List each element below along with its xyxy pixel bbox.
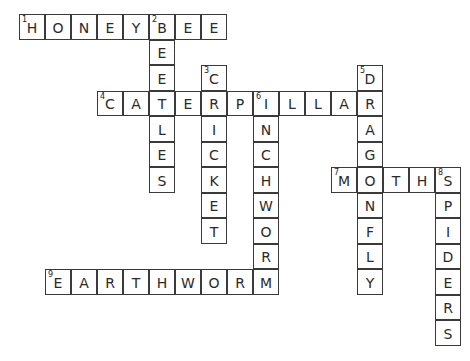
- cell-letter: O: [52, 20, 63, 36]
- crossword-cell[interactable]: E: [97, 14, 123, 40]
- crossword-cell[interactable]: 3C: [201, 65, 227, 91]
- crossword-cell[interactable]: E: [149, 65, 175, 91]
- cell-letter: I: [264, 96, 268, 112]
- crossword-cell[interactable]: R: [253, 244, 279, 270]
- crossword-cell[interactable]: H: [409, 167, 435, 193]
- crossword-cell[interactable]: F: [357, 218, 383, 244]
- crossword-cell[interactable]: 7M: [331, 167, 357, 193]
- crossword-cell[interactable]: O: [253, 218, 279, 244]
- cell-letter: N: [79, 20, 89, 36]
- crossword-cell[interactable]: 9E: [45, 269, 71, 295]
- crossword-cell[interactable]: O: [201, 269, 227, 295]
- crossword-cell[interactable]: A: [357, 116, 383, 142]
- crossword-cell[interactable]: D: [435, 244, 461, 270]
- cell-letter: H: [157, 275, 168, 291]
- cell-letter: C: [105, 96, 115, 112]
- crossword-cell[interactable]: S: [435, 320, 461, 346]
- clue-number: 8: [438, 168, 443, 177]
- crossword-cell[interactable]: G: [357, 142, 383, 168]
- crossword-cell[interactable]: 8S: [435, 167, 461, 193]
- cell-letter: F: [366, 224, 374, 240]
- crossword-cell[interactable]: I: [435, 218, 461, 244]
- crossword-cell[interactable]: W: [253, 193, 279, 219]
- clue-number: 3: [204, 66, 209, 75]
- crossword-cell[interactable]: E: [149, 40, 175, 66]
- clue-number: 9: [48, 270, 53, 279]
- crossword-cell[interactable]: Y: [123, 14, 149, 40]
- cell-letter: B: [157, 20, 167, 36]
- crossword-cell[interactable]: P: [435, 193, 461, 219]
- crossword-cell[interactable]: L: [149, 116, 175, 142]
- crossword-cell[interactable]: R: [227, 269, 253, 295]
- cell-letter: E: [184, 96, 193, 112]
- crossword-cell[interactable]: 2B: [149, 14, 175, 40]
- crossword-cell[interactable]: L: [357, 244, 383, 270]
- crossword-cell[interactable]: N: [357, 193, 383, 219]
- crossword-cell[interactable]: E: [175, 14, 201, 40]
- crossword-cell[interactable]: A: [71, 269, 97, 295]
- crossword-cell[interactable]: 4C: [97, 91, 123, 117]
- cell-letter: D: [365, 71, 376, 87]
- cell-letter: L: [158, 122, 166, 138]
- cell-letter: E: [158, 147, 167, 163]
- cell-letter: R: [105, 275, 115, 291]
- cell-letter: M: [260, 275, 272, 291]
- crossword-cell[interactable]: E: [175, 91, 201, 117]
- cell-letter: C: [209, 71, 219, 87]
- crossword-cell[interactable]: P: [227, 91, 253, 117]
- cell-letter: R: [365, 96, 375, 112]
- crossword-cell[interactable]: I: [201, 116, 227, 142]
- crossword-cell[interactable]: A: [123, 91, 149, 117]
- cell-letter: H: [261, 173, 272, 189]
- crossword-cell[interactable]: O: [45, 14, 71, 40]
- cell-letter: W: [259, 198, 273, 214]
- crossword-cell[interactable]: E: [201, 14, 227, 40]
- crossword-cell[interactable]: A: [331, 91, 357, 117]
- crossword-cell[interactable]: 5D: [357, 65, 383, 91]
- crossword-cell[interactable]: K: [201, 167, 227, 193]
- crossword-cell[interactable]: E: [149, 142, 175, 168]
- cell-letter: P: [444, 198, 452, 214]
- crossword-cell[interactable]: O: [357, 167, 383, 193]
- crossword-cell[interactable]: T: [383, 167, 409, 193]
- crossword-cell[interactable]: N: [71, 14, 97, 40]
- crossword-cell[interactable]: 1H: [19, 14, 45, 40]
- crossword-cell[interactable]: R: [357, 91, 383, 117]
- cell-letter: R: [235, 275, 245, 291]
- cell-letter: N: [365, 198, 375, 214]
- cell-letter: S: [444, 173, 453, 189]
- crossword-cell[interactable]: W: [175, 269, 201, 295]
- cell-letter: D: [443, 249, 454, 265]
- clue-number: 5: [360, 66, 365, 75]
- cell-letter: R: [261, 249, 271, 265]
- cell-letter: E: [210, 198, 219, 214]
- cell-letter: E: [158, 71, 167, 87]
- cell-letter: E: [184, 20, 193, 36]
- crossword-cell[interactable]: S: [149, 167, 175, 193]
- crossword-cell[interactable]: R: [435, 295, 461, 321]
- cell-letter: E: [54, 275, 63, 291]
- crossword-cell[interactable]: L: [279, 91, 305, 117]
- crossword-cell[interactable]: T: [123, 269, 149, 295]
- crossword-cell[interactable]: L: [305, 91, 331, 117]
- cell-letter: S: [444, 326, 453, 342]
- crossword-cell[interactable]: M: [253, 269, 279, 295]
- crossword-cell[interactable]: N: [253, 116, 279, 142]
- crossword-cell[interactable]: R: [97, 269, 123, 295]
- crossword-cell[interactable]: E: [201, 193, 227, 219]
- cell-letter: A: [79, 275, 89, 291]
- crossword-cell[interactable]: R: [201, 91, 227, 117]
- crossword-cell[interactable]: T: [149, 91, 175, 117]
- crossword-cell[interactable]: Y: [357, 269, 383, 295]
- crossword-cell[interactable]: H: [253, 167, 279, 193]
- cell-letter: A: [339, 96, 349, 112]
- crossword-cell[interactable]: C: [253, 142, 279, 168]
- cell-letter: A: [365, 122, 375, 138]
- crossword-cell[interactable]: E: [435, 269, 461, 295]
- crossword-cell[interactable]: H: [149, 269, 175, 295]
- crossword-cell[interactable]: C: [201, 142, 227, 168]
- crossword-cell[interactable]: 6I: [253, 91, 279, 117]
- cell-letter: E: [444, 275, 453, 291]
- crossword-cell[interactable]: T: [201, 218, 227, 244]
- cell-letter: C: [261, 147, 271, 163]
